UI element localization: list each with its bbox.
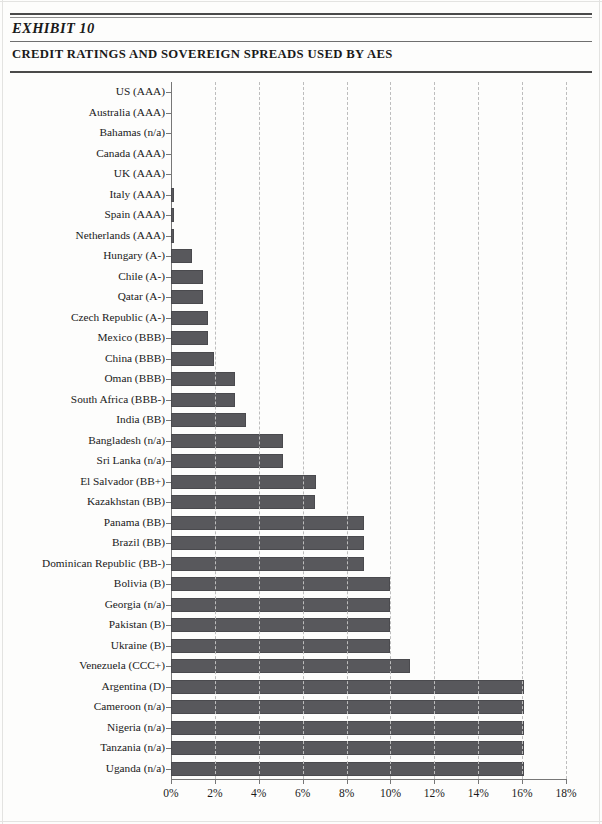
bar <box>171 229 174 243</box>
category-label: South Africa (BBB-) <box>71 393 165 405</box>
bar <box>171 434 283 448</box>
bar <box>171 352 214 366</box>
x-axis-tick-label: 0% <box>148 787 194 799</box>
category-label: Bahamas (n/a) <box>99 126 165 138</box>
x-axis-tick <box>390 779 391 784</box>
y-axis-tick <box>166 215 171 216</box>
bar <box>171 413 246 427</box>
bar <box>171 536 364 550</box>
category-label: Brazil (BB) <box>112 536 165 548</box>
bar <box>171 270 203 284</box>
category-label: UK (AAA) <box>114 167 165 179</box>
bar <box>171 516 364 530</box>
bar <box>171 557 364 571</box>
x-axis-tick <box>303 779 304 784</box>
bar <box>171 208 174 222</box>
y-axis-tick <box>166 728 171 729</box>
category-label: Ukraine (B) <box>111 639 165 651</box>
y-axis-tick <box>166 256 171 257</box>
y-axis-tick <box>166 400 171 401</box>
x-axis-tick <box>522 779 523 784</box>
category-label: Hungary (A-) <box>103 249 165 261</box>
bar <box>171 680 524 694</box>
gridline <box>303 82 304 779</box>
category-label: US (AAA) <box>116 85 165 97</box>
page-edge-top <box>0 1 602 2</box>
category-label: Pakistan (B) <box>109 618 165 630</box>
category-label: El Salvador (BB+) <box>80 475 165 487</box>
y-axis-tick <box>166 297 171 298</box>
header-rule-bottom <box>10 71 592 73</box>
x-axis-tick-label: 12% <box>411 787 457 799</box>
y-axis-tick <box>166 707 171 708</box>
y-axis-tick <box>166 646 171 647</box>
category-label: Chile (A-) <box>118 270 165 282</box>
plot-area <box>171 82 566 779</box>
header-rule-top-thick <box>10 13 592 15</box>
y-axis-tick <box>166 318 171 319</box>
gridline <box>522 82 523 779</box>
bar <box>171 741 524 755</box>
bar <box>171 577 390 591</box>
bar <box>171 311 208 325</box>
category-label: Canada (AAA) <box>96 147 165 159</box>
y-axis-tick <box>166 236 171 237</box>
bar <box>171 618 390 632</box>
x-axis-tick <box>259 779 260 784</box>
y-axis-tick <box>166 359 171 360</box>
bar <box>171 290 203 304</box>
x-axis-tick-label: 16% <box>499 787 545 799</box>
y-axis-tick <box>166 379 171 380</box>
y-axis-tick <box>166 523 171 524</box>
category-label: Bolivia (B) <box>114 577 165 589</box>
x-axis-tick <box>215 779 216 784</box>
y-axis-tick <box>166 666 171 667</box>
bar <box>171 598 390 612</box>
y-axis-tick <box>166 482 171 483</box>
y-axis-tick <box>166 154 171 155</box>
category-label: Oman (BBB) <box>104 372 165 384</box>
bar <box>171 639 390 653</box>
bar <box>171 762 524 776</box>
y-axis-tick <box>166 441 171 442</box>
category-label: Venezuela (CCC+) <box>79 659 165 671</box>
bar <box>171 659 410 673</box>
bar <box>171 721 524 735</box>
bar <box>171 372 235 386</box>
category-label: Spain (AAA) <box>104 208 165 220</box>
category-label: Panama (BB) <box>104 516 165 528</box>
x-axis-tick-label: 18% <box>543 787 589 799</box>
category-label: Nigeria (n/a) <box>107 721 165 733</box>
bar-chart: 0%2%4%6%8%10%12%14%16%18% US (AAA)Austra… <box>0 78 602 824</box>
y-axis-tick <box>166 133 171 134</box>
category-label: Tanzania (n/a) <box>100 741 165 753</box>
gridline <box>566 82 567 779</box>
y-axis-tick <box>166 625 171 626</box>
y-axis-tick <box>166 502 171 503</box>
x-axis-tick-label: 10% <box>367 787 413 799</box>
x-axis-tick <box>566 779 567 784</box>
header-rule-top-thin <box>10 17 592 18</box>
y-axis-tick <box>166 174 171 175</box>
gridline <box>434 82 435 779</box>
y-axis-tick <box>166 195 171 196</box>
exhibit-label: EXHIBIT 10 <box>12 20 95 37</box>
gridline <box>259 82 260 779</box>
category-label: Kazakhstan (BB) <box>87 495 165 507</box>
x-axis-tick-label: 14% <box>455 787 501 799</box>
y-axis-tick <box>166 769 171 770</box>
category-label: Bangladesh (n/a) <box>88 434 165 446</box>
x-axis-tick <box>434 779 435 784</box>
category-label: Sri Lanka (n/a) <box>97 454 165 466</box>
y-axis-tick <box>166 564 171 565</box>
gridline <box>347 82 348 779</box>
category-label: Netherlands (AAA) <box>76 229 165 241</box>
y-axis-tick <box>166 543 171 544</box>
category-label: Dominican Republic (BB-) <box>42 557 165 569</box>
y-axis-tick <box>166 584 171 585</box>
y-axis-tick <box>166 461 171 462</box>
category-label: Uganda (n/a) <box>106 762 165 774</box>
y-axis-tick <box>166 113 171 114</box>
y-axis-tick <box>166 92 171 93</box>
x-axis-tick-label: 2% <box>192 787 238 799</box>
